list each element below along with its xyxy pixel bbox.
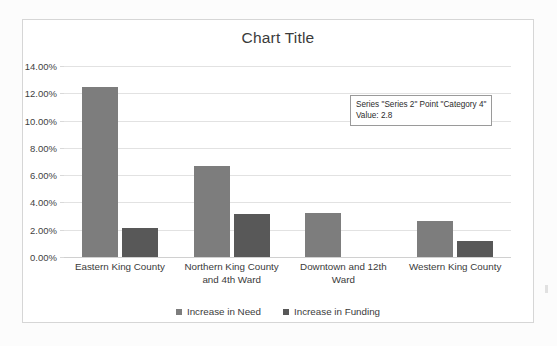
y-axis-tick-label: 10.00% [25, 115, 57, 126]
legend-label: Increase in Funding [294, 306, 380, 317]
bar-group [64, 66, 176, 257]
x-axis-category-label: Northern King County and 4th Ward [176, 260, 288, 286]
y-axis-tick-label: 14.00% [25, 61, 57, 72]
x-axis-category-label: Western King County [399, 260, 511, 273]
bar-2[interactable] [122, 228, 158, 257]
bar-1[interactable] [82, 87, 118, 257]
y-axis-tick-label: 2.00% [30, 224, 57, 235]
page-canvas: Chart Title 14.00%12.00%10.00%8.00%6.00%… [0, 0, 557, 346]
bar-1[interactable] [417, 221, 453, 257]
y-axis-tick-label: 8.00% [30, 142, 57, 153]
tooltip-value-line: Value: 2.8 [356, 110, 486, 121]
bar-2[interactable] [457, 241, 493, 257]
legend-swatch-icon [283, 309, 289, 315]
y-axis-tick-label: 0.00% [30, 252, 57, 263]
y-axis-tick-label: 4.00% [30, 197, 57, 208]
chart-title[interactable]: Chart Title [23, 29, 533, 47]
tooltip-series-line: Series "Series 2" Point "Category 4" [356, 99, 486, 110]
x-axis-category-label: Downtown and 12th Ward [288, 260, 400, 286]
legend-label: Increase in Need [187, 306, 261, 317]
chart-frame[interactable]: Chart Title 14.00%12.00%10.00%8.00%6.00%… [22, 19, 534, 323]
bar-1[interactable] [305, 213, 341, 257]
legend-item[interactable]: Increase in Need [176, 306, 261, 317]
x-axis-category-label: Eastern King County [64, 260, 176, 273]
scan-artifact [545, 285, 548, 293]
y-axis-tick-label: 12.00% [25, 88, 57, 99]
gridline [64, 257, 511, 258]
bar-group [176, 66, 288, 257]
bar-2[interactable] [234, 214, 270, 257]
legend-item[interactable]: Increase in Funding [283, 306, 380, 317]
data-point-tooltip: Series "Series 2" Point "Category 4" Val… [350, 95, 492, 126]
x-axis-category-labels: Eastern King CountyNorthern King County … [64, 260, 511, 300]
bar-1[interactable] [194, 166, 230, 257]
y-axis-tickmark [60, 257, 64, 258]
chart-legend[interactable]: Increase in NeedIncrease in Funding [23, 306, 533, 317]
legend-swatch-icon [176, 309, 182, 315]
y-axis-tick-label: 6.00% [30, 170, 57, 181]
